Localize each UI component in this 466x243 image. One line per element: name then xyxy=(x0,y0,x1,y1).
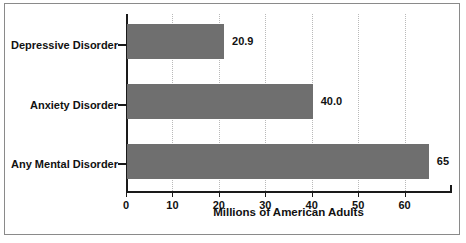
y-axis-label-depressive-disorder: Depressive Disorder xyxy=(11,38,118,52)
bar-1[interactable] xyxy=(127,84,313,119)
y-axis-label-anxiety-disorder: Anxiety Disorder xyxy=(30,98,118,112)
bar-value-label-0: 20.9 xyxy=(232,24,253,59)
bar-value-label-2: 65 xyxy=(437,144,449,179)
y-axis-label-any-mental-disorder: Any Mental Disorder xyxy=(11,157,118,171)
x-tick-20 xyxy=(219,191,220,197)
x-tick-0 xyxy=(126,191,127,197)
x-tick-50 xyxy=(358,191,359,197)
x-tick-30 xyxy=(265,191,266,197)
y-tick-1 xyxy=(118,104,126,106)
x-tick-10 xyxy=(172,191,173,197)
x-axis-line xyxy=(126,191,451,193)
bar-value-label-1: 40.0 xyxy=(321,84,342,119)
x-axis-end-tick xyxy=(450,185,452,193)
y-axis-category-labels: Depressive Disorder Anxiety Disorder Any… xyxy=(11,14,118,193)
chart-figure: Depressive Disorder Anxiety Disorder Any… xyxy=(4,3,460,235)
bar-2[interactable] xyxy=(127,144,429,179)
bar-0[interactable] xyxy=(127,24,224,59)
x-tick-40 xyxy=(312,191,313,197)
x-tick-60 xyxy=(405,191,406,197)
y-tick-0 xyxy=(118,44,126,46)
plot-area: 20.940.065 0102030405060 xyxy=(126,14,451,193)
x-axis-title: Millions of American Adults xyxy=(126,206,451,218)
y-tick-2 xyxy=(118,163,126,165)
